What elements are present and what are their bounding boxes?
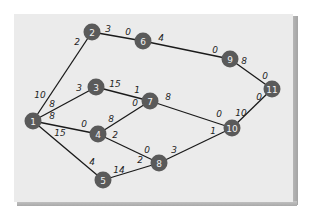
edge-label-3-7-from: 15: [109, 79, 121, 89]
edge-5-8: [103, 163, 159, 180]
edge-label-10-11-to: 0: [256, 92, 262, 102]
node-label: 1: [30, 117, 36, 127]
edge-label-9-11-to: 0: [262, 71, 268, 81]
node-label: 10: [226, 124, 238, 134]
edge-label-8-10-from: 3: [171, 145, 177, 155]
edge-4-7: [98, 101, 150, 134]
node-label: 2: [89, 28, 95, 38]
network-graph: 102838015430401518020142803180100 123456…: [0, 0, 313, 216]
edge-1-2: [33, 32, 92, 121]
node-11: 11: [264, 81, 281, 98]
edge-label-5-8-to: 2: [137, 155, 143, 165]
node-5: 5: [95, 172, 112, 189]
node-9: 9: [222, 51, 239, 68]
edge-label-4-7-to: 0: [132, 98, 138, 108]
edge-label-4-7-from: 8: [108, 114, 114, 124]
edge-label-1-2-from: 10: [34, 90, 46, 100]
edge-label-2-6-to: 0: [125, 27, 131, 37]
node-10: 10: [224, 120, 241, 137]
edge-label-6-9-from: 4: [158, 33, 164, 43]
node-2: 2: [84, 24, 101, 41]
node-label: 8: [156, 159, 162, 169]
edge-8-10: [159, 128, 232, 163]
edge-label-9-11-from: 8: [241, 56, 247, 66]
edge-label-5-8-from: 14: [113, 165, 125, 175]
node-4: 4: [90, 126, 107, 143]
node-6: 6: [135, 33, 152, 50]
edge-label-8-10-to: 1: [210, 126, 216, 136]
edge-label-1-5-to: 4: [89, 157, 95, 167]
edge-label-6-9-to: 0: [212, 45, 218, 55]
edge-label-1-2-to: 2: [74, 37, 80, 47]
edge-label-1-3-from: 8: [49, 99, 55, 109]
node-label: 7: [147, 97, 153, 107]
edge-label-2-6-from: 3: [105, 24, 111, 34]
edge-label-1-4-to: 0: [81, 119, 87, 129]
edge-label-1-3-to: 3: [76, 83, 82, 93]
edge-label-1-5-from: 15: [54, 128, 66, 138]
node-1: 1: [25, 113, 42, 130]
edge-label-1-4-from: 8: [49, 111, 55, 121]
nodes-layer: 1234567891011: [25, 24, 281, 189]
edge-label-4-8-from: 2: [112, 130, 118, 140]
node-3: 3: [88, 79, 105, 96]
node-label: 9: [227, 55, 233, 65]
node-label: 6: [140, 37, 146, 47]
edge-label-3-7-to: 1: [134, 85, 140, 95]
edge-label-10-11-from: 10: [235, 108, 247, 118]
node-label: 3: [93, 83, 99, 93]
node-label: 5: [100, 176, 106, 186]
node-8: 8: [151, 155, 168, 172]
node-7: 7: [142, 93, 159, 110]
node-label: 4: [95, 130, 101, 140]
edge-label-7-10-from: 8: [165, 92, 171, 102]
edge-label-4-8-to: 0: [144, 145, 150, 155]
edge-label-7-10-to: 0: [216, 109, 222, 119]
node-label: 11: [266, 85, 277, 95]
